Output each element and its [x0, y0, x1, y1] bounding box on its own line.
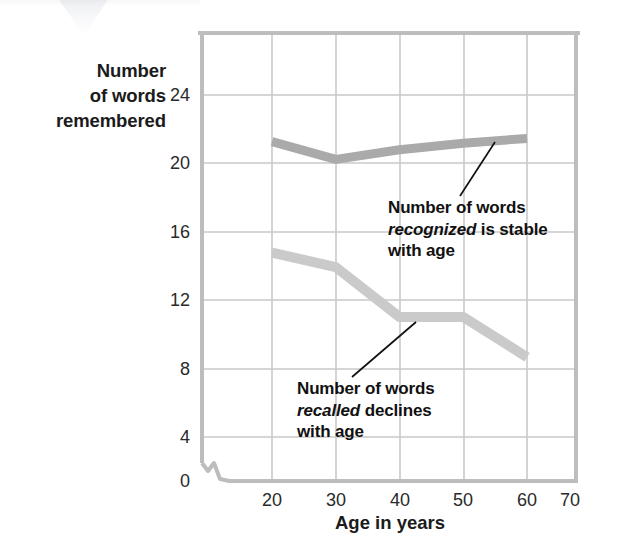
annotation-recalled-emphasis: recalled — [297, 401, 360, 420]
annotation-recalled-line-3: with age — [297, 421, 482, 443]
annotation-recalled-line-2-rest: declines — [360, 401, 431, 420]
annotation-recognized-line-3: with age — [388, 240, 578, 262]
memory-age-line-chart: Number of words remembered 24 20 16 12 8… — [0, 0, 619, 549]
annotation-recognized-emphasis: recognized — [388, 220, 476, 239]
annotation-recognized-line-2-rest: is stable — [476, 220, 547, 239]
annotation-recalled-line-1: Number of words — [297, 378, 482, 400]
annotation-recalled-line-2: recalled declines — [297, 400, 482, 422]
annotation-recalled: Number of words recalled declines with a… — [297, 378, 482, 443]
annotation-recognized: Number of words recognized is stable wit… — [388, 197, 578, 262]
annotation-recognized-line-1: Number of words — [388, 197, 578, 219]
annotation-recognized-line-2: recognized is stable — [388, 219, 578, 241]
plot-area — [0, 0, 619, 549]
